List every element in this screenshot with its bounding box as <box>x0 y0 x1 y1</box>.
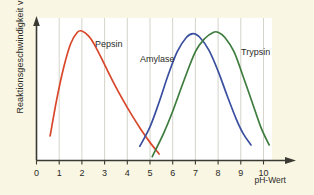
x-tick-label-3: 3 <box>102 168 107 178</box>
x-tick-label-9: 9 <box>238 168 243 178</box>
x-tick-label-5: 5 <box>147 168 152 178</box>
x-tick-label-1: 1 <box>57 168 62 178</box>
x-tick-label-2: 2 <box>79 168 84 178</box>
x-tick-label-0: 0 <box>34 168 39 178</box>
x-tick-label-6: 6 <box>170 168 175 178</box>
series-label-pepsin: Pepsin <box>95 39 123 49</box>
enzyme-ph-chart: 012345678910 pH-Wert Pepsin Amylase Tryp… <box>0 0 314 195</box>
chart-figure: 012345678910 pH-Wert Pepsin Amylase Tryp… <box>0 0 314 195</box>
x-tick-label-8: 8 <box>216 168 221 178</box>
y-axis-title: Reaktionsgeschwindigkeit v <box>15 0 25 132</box>
plot-area-background <box>36 18 272 160</box>
x-tick-label-7: 7 <box>193 168 198 178</box>
series-label-amylase: Amylase <box>140 54 175 64</box>
x-axis-title: pH-Wert <box>255 175 287 185</box>
series-label-trypsin: Trypsin <box>241 47 270 57</box>
x-tick-label-4: 4 <box>125 168 130 178</box>
